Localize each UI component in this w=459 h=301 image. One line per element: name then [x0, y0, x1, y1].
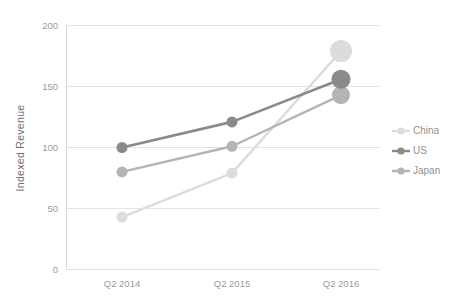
x-tick-label-q2-2015: Q2 2015 [214, 278, 250, 289]
legend-swatch-marker-japan [397, 167, 404, 174]
y-tick-label-100: 100 [42, 142, 58, 153]
legend-item-china[interactable]: China [392, 125, 440, 136]
legend-label-china: China [413, 125, 440, 136]
x-tick-label-q2-2014: Q2 2014 [104, 278, 140, 289]
line-chart: 200 150 100 50 0 Indexed Revenue Q2 2014… [0, 0, 459, 301]
series-us [117, 70, 351, 153]
y-tick-label-200: 200 [42, 20, 58, 31]
data-point-china-q2-2016 [330, 40, 352, 62]
data-point-us-q2-2016 [332, 70, 351, 89]
data-point-us-q2-2015 [227, 116, 238, 127]
series-line-japan [122, 95, 341, 172]
legend-swatch-marker-us [397, 147, 404, 154]
y-tick-label-50: 50 [47, 203, 58, 214]
series-japan [117, 86, 351, 177]
y-tick-labels: 200 150 100 50 0 [42, 20, 58, 275]
x-tick-label-q2-2016: Q2 2016 [323, 278, 359, 289]
y-tick-label-150: 150 [42, 81, 58, 92]
data-point-us-q2-2014 [117, 142, 128, 153]
data-point-japan-q2-2015 [227, 141, 238, 152]
data-point-japan-q2-2014 [117, 166, 128, 177]
legend-swatch-marker-china [397, 127, 404, 134]
legend-label-japan: Japan [413, 165, 440, 176]
x-tick-labels: Q2 2014 Q2 2015 Q2 2016 [104, 278, 359, 289]
series-china [117, 40, 353, 222]
chart-canvas: 200 150 100 50 0 Indexed Revenue Q2 2014… [0, 0, 459, 301]
series-layer [117, 40, 353, 222]
data-point-china-q2-2015 [227, 168, 238, 179]
legend-item-us[interactable]: US [392, 145, 427, 156]
data-point-japan-q2-2016 [332, 86, 350, 104]
series-line-china [122, 51, 341, 217]
legend-label-us: US [413, 145, 427, 156]
y-tick-label-0: 0 [53, 264, 58, 275]
data-point-china-q2-2014 [117, 212, 128, 223]
y-axis-title: Indexed Revenue [14, 105, 26, 192]
chart-legend: ChinaUSJapan [392, 125, 440, 176]
legend-item-japan[interactable]: Japan [392, 165, 440, 176]
